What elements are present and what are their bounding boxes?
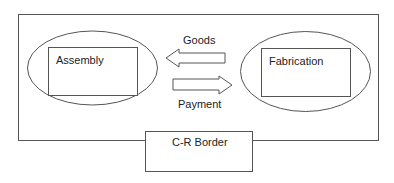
- goods-arrow-left-icon: [166, 49, 225, 67]
- cr-border-label: C-R Border: [172, 136, 228, 148]
- diagram-canvas: [0, 0, 394, 183]
- payment-arrow-right-icon: [173, 76, 232, 94]
- payment-label: Payment: [178, 98, 221, 110]
- fabrication-label: Fabrication: [269, 55, 323, 67]
- assembly-label: Assembly: [56, 54, 104, 66]
- goods-label: Goods: [183, 34, 215, 46]
